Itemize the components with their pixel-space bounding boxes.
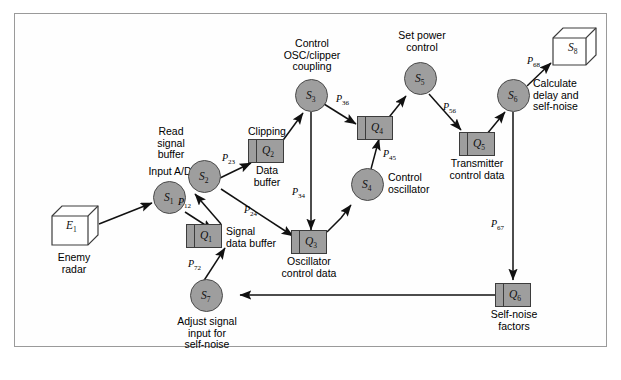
node-label-S6: S6 [508, 89, 518, 104]
node-label-S2: S2 [199, 170, 209, 185]
flow-label-P56: P56 [443, 101, 456, 115]
label-oscillator-control-data: Oscillator control data [269, 256, 349, 279]
flow-label-P36: P36 [336, 93, 349, 107]
flow-label-P68: P68 [527, 55, 540, 69]
node-label-S3: S3 [306, 89, 316, 104]
flow-label-P24: P24 [244, 204, 257, 218]
flow-label-P45: P45 [383, 148, 396, 162]
flow-label-P72: P72 [188, 258, 201, 272]
flow-label-P67: P67 [491, 218, 504, 232]
node-label-S5: S5 [415, 72, 425, 87]
node-label-Q5: Q5 [473, 137, 485, 152]
flow-P12 [195, 194, 221, 224]
label-read-signal-buffer: Read signal buffer [146, 126, 196, 161]
flow-P72 [203, 248, 225, 282]
label-set-power-control: Set power control [382, 30, 462, 53]
label-data-buffer: Data buffer [236, 165, 298, 188]
node-label-S1: S1 [164, 191, 174, 206]
node-label-Q6: Q6 [509, 288, 521, 303]
node-label-E1: E1 [66, 219, 77, 234]
flow-label-P12: P12 [178, 196, 191, 210]
node-label-Q1: Q1 [200, 229, 212, 244]
label-calculate-delay: Calculate delay and self-noise [533, 78, 599, 113]
node-label-Q2: Q2 [262, 144, 274, 159]
flow-P45 [371, 139, 379, 169]
label-adjust-signal: Adjust signal input for self-noise [166, 316, 248, 351]
label-transmitter-control-data: Transmitter control data [436, 158, 518, 181]
node-label-S7: S7 [201, 289, 211, 304]
label-enemy-radar: Enemy radar [40, 252, 108, 275]
flow-label-P23: P23 [222, 152, 235, 166]
flow-label-P34: P34 [292, 186, 305, 200]
flow-Q3-S4 [327, 205, 351, 232]
node-label-S8: S8 [568, 41, 578, 56]
label-control-osc: Control OSC/clipper coupling [270, 38, 354, 73]
flow-P36 [324, 104, 356, 124]
node-label-Q3: Q3 [305, 235, 317, 250]
label-self-noise-factors: Self-noise factors [478, 309, 550, 332]
flow-E1-S1 [99, 203, 152, 224]
node-label-Q4: Q4 [371, 121, 383, 136]
label-clipping: Clipping [236, 126, 298, 138]
node-label-S4: S4 [362, 178, 372, 193]
